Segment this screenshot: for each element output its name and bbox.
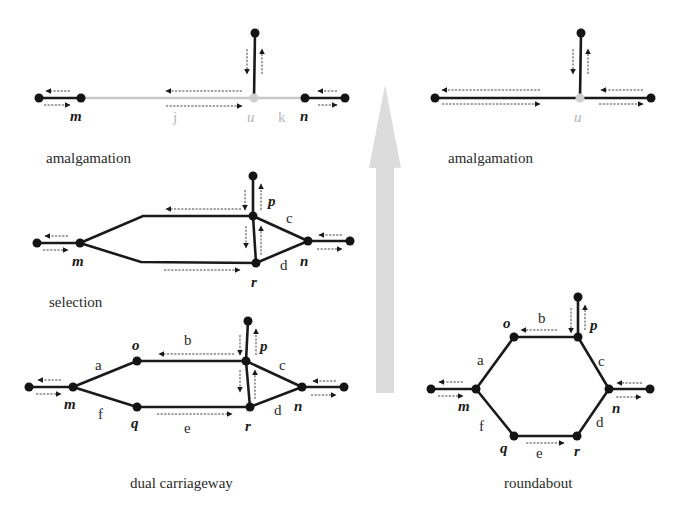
panel-roundabout: m o p n r q a b c d e f roundabout: [427, 293, 655, 492]
node-p: [242, 357, 251, 366]
node-n: [301, 94, 310, 103]
label-n: n: [294, 398, 302, 414]
node-end-left: [35, 94, 44, 103]
label-u: u: [574, 109, 582, 125]
node-end-top: [577, 29, 586, 38]
label-j: j: [172, 109, 177, 125]
label-a: a: [95, 357, 102, 373]
node-end-left: [25, 383, 34, 392]
node-q: [510, 432, 519, 441]
panel-amalgamation-right: u amalgamation: [431, 29, 656, 167]
node-n: [304, 237, 313, 246]
label-e: e: [184, 420, 191, 436]
node-end-top: [251, 29, 260, 38]
node-m: [76, 239, 85, 248]
label-m: m: [70, 108, 82, 124]
label-f: f: [98, 406, 103, 422]
label-c: c: [598, 353, 605, 369]
node-end-left: [427, 385, 436, 394]
central-up-arrow-icon: [369, 85, 401, 393]
label-d: d: [596, 414, 604, 430]
label-p: p: [266, 193, 276, 209]
label-n: n: [300, 108, 308, 124]
label-m: m: [64, 396, 76, 412]
label-c: c: [279, 357, 286, 373]
caption-dual-carriageway: dual carriageway: [130, 475, 233, 491]
road-network-generalization-diagram: m u n j k amalgamation u amalgamation: [0, 0, 683, 512]
node-end-right: [341, 94, 350, 103]
label-q: q: [131, 415, 139, 431]
panel-selection: m p r n c d selection: [33, 172, 355, 311]
node-o: [510, 333, 519, 342]
caption-selection: selection: [49, 294, 103, 310]
node-p: [249, 212, 258, 221]
caption-roundabout: roundabout: [504, 475, 573, 491]
node-n: [298, 383, 307, 392]
panel-dual-carriageway: m o q p r n a b c d e f dual carriageway: [25, 317, 349, 492]
label-p: p: [588, 317, 598, 333]
node-p: [574, 333, 583, 342]
node-end-top: [574, 293, 583, 302]
label-c: c: [286, 210, 293, 226]
label-u: u: [247, 109, 255, 125]
label-m: m: [458, 398, 470, 414]
panel-amalgamation-left: m u n j k amalgamation: [35, 29, 350, 167]
label-r: r: [245, 418, 251, 434]
node-q: [133, 403, 142, 412]
label-o: o: [503, 315, 511, 331]
label-r: r: [574, 443, 580, 459]
caption-amalgamation-left: amalgamation: [46, 150, 131, 166]
node-end-right: [646, 385, 655, 394]
label-d: d: [274, 402, 282, 418]
label-o: o: [132, 337, 140, 353]
caption-amalgamation-right: amalgamation: [448, 150, 533, 166]
label-q: q: [500, 440, 508, 456]
node-m: [69, 383, 78, 392]
node-n: [605, 385, 614, 394]
node-u: [250, 94, 259, 103]
node-u: [576, 94, 585, 103]
node-r: [246, 403, 255, 412]
node-end-top: [249, 172, 258, 181]
node-end-left: [431, 94, 440, 103]
node-r: [252, 259, 261, 268]
label-a: a: [477, 352, 484, 368]
label-e: e: [536, 445, 543, 461]
label-b: b: [538, 310, 546, 326]
node-end-right: [340, 383, 349, 392]
node-end-right: [346, 237, 355, 246]
node-end-top: [244, 317, 253, 326]
node-m: [77, 94, 86, 103]
label-f: f: [479, 418, 484, 434]
node-end-left: [33, 239, 42, 248]
node-m: [472, 385, 481, 394]
node-r: [573, 432, 582, 441]
label-r: r: [251, 274, 257, 290]
label-n: n: [612, 400, 620, 416]
label-p: p: [258, 338, 268, 354]
label-n: n: [300, 253, 308, 269]
label-m: m: [72, 253, 84, 269]
label-b: b: [184, 332, 192, 348]
node-end-right: [647, 94, 656, 103]
label-k: k: [278, 109, 286, 125]
node-o: [133, 357, 142, 366]
label-d: d: [280, 257, 288, 273]
